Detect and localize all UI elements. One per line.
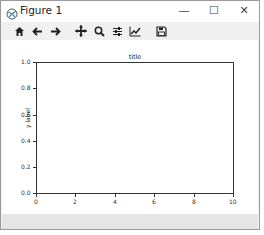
matplotlib-app-icon	[6, 5, 18, 17]
x-tick-label: 10	[229, 198, 237, 205]
y-tick-label: 0.2	[21, 163, 31, 170]
x-tick-label: 0	[34, 198, 38, 205]
x-tick-label: 6	[152, 198, 156, 205]
y-tick-label: 0.6	[21, 111, 31, 118]
magnifier-icon	[94, 26, 105, 37]
title-bar[interactable]: Figure 1 — ☐ ✕	[1, 1, 259, 22]
x-tick-mark	[194, 194, 195, 197]
x-tick-label: 8	[192, 198, 196, 205]
x-tick-mark	[36, 194, 37, 197]
y-tick-label: 0.4	[21, 137, 31, 144]
x-tick-mark	[115, 194, 116, 197]
window-title: Figure 1	[20, 4, 62, 16]
navigation-toolbar	[1, 22, 259, 40]
maximize-button[interactable]: ☐	[199, 1, 229, 22]
x-tick-mark	[154, 194, 155, 197]
home-icon	[14, 26, 25, 37]
y-tick-mark	[33, 88, 36, 89]
y-tick-label: 0.0	[21, 189, 31, 196]
home-button[interactable]	[11, 23, 27, 39]
floppy-disk-icon	[156, 26, 167, 37]
close-button[interactable]: ✕	[229, 1, 259, 22]
arrow-left-icon	[32, 26, 43, 37]
x-tick-mark	[75, 194, 76, 197]
sliders-icon	[112, 26, 123, 37]
status-bar	[2, 214, 258, 229]
x-tick-mark	[233, 194, 234, 197]
chart-line-icon	[129, 26, 141, 37]
configure-subplots-button[interactable]	[109, 23, 125, 39]
plot-axes[interactable]	[36, 62, 234, 194]
arrow-right-icon	[50, 26, 61, 37]
y-tick-mark	[33, 167, 36, 168]
edit-axes-button[interactable]	[127, 23, 143, 39]
x-tick-label: 4	[113, 198, 117, 205]
save-button[interactable]	[153, 23, 169, 39]
x-tick-label: 2	[73, 198, 77, 205]
y-tick-label: 0.8	[21, 84, 31, 91]
y-tick-mark	[33, 141, 36, 142]
back-button[interactable]	[29, 23, 45, 39]
zoom-button[interactable]	[91, 23, 107, 39]
forward-button[interactable]	[47, 23, 63, 39]
minimize-button[interactable]: —	[169, 1, 199, 22]
y-tick-label: 1.0	[21, 58, 31, 65]
y-tick-mark	[33, 115, 36, 116]
y-tick-mark	[33, 62, 36, 63]
pan-button[interactable]	[73, 23, 89, 39]
move-icon	[75, 25, 87, 37]
plot-title: title	[36, 53, 234, 61]
